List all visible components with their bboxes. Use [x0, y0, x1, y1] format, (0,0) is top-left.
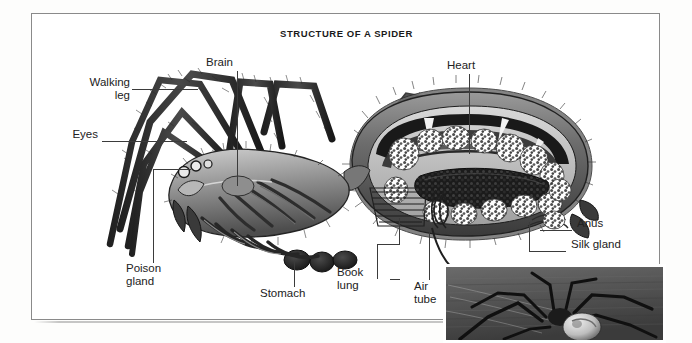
- label-anus: Anus: [577, 217, 637, 230]
- label-stomach: Stomach: [260, 287, 340, 300]
- label-eyes: Eyes: [42, 128, 98, 141]
- label-brain: Brain: [206, 56, 266, 69]
- label-book-lung: Book lung: [337, 266, 391, 292]
- label-walking-leg: Walking leg: [50, 76, 130, 102]
- figure-root: STRUCTURE OF A SPIDER: [0, 0, 692, 343]
- label-silk-gland: Silk gland: [571, 238, 661, 251]
- leader-poison-gland-arm: [153, 169, 191, 170]
- label-poison-gland: Poison gland: [126, 262, 196, 288]
- leader-air-tube: [429, 232, 430, 280]
- leader-stomach: [294, 261, 295, 287]
- leader-book-lung-tail: [390, 279, 400, 280]
- leader-book-lung-arm: [377, 244, 399, 245]
- leader-poison-gland-riser: [153, 169, 154, 263]
- label-heart: Heart: [447, 59, 507, 72]
- leader-brain: [237, 71, 238, 186]
- leader-heart: [469, 74, 470, 154]
- leader-anus: [540, 230, 572, 231]
- leader-silk-gland: [529, 251, 566, 252]
- photo-image: [446, 267, 663, 340]
- leader-eyes: [102, 141, 187, 142]
- leader-book-lung-riser: [399, 218, 400, 245]
- leader-walking-leg: [132, 89, 198, 90]
- leader-silk-gland-riser: [529, 222, 530, 252]
- spider-photograph-inset: [443, 264, 666, 343]
